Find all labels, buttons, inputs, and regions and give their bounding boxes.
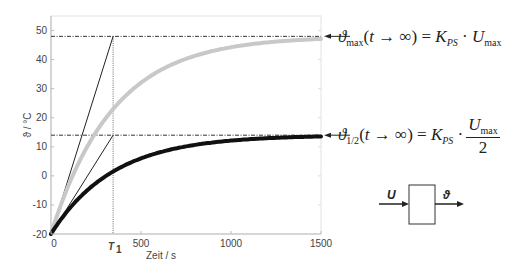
reference-lines (51, 36, 321, 234)
response-curve (51, 137, 321, 235)
eq-half-dot: · (453, 125, 463, 144)
t1-subscript: 1 (116, 244, 122, 255)
eq-half-arg: (t → ∞) = (359, 125, 431, 144)
equation-theta-half: ϑ1/2(t → ∞) = KPS · Umax 2 (338, 116, 500, 156)
annotation-arrowhead-icon (324, 34, 331, 39)
eq-half-denominator: 2 (466, 138, 500, 156)
eq-half-num-u: U (468, 115, 480, 134)
t1-label: T (108, 241, 115, 252)
output-arrowhead-icon (457, 201, 464, 207)
eq-half-num-sub: max (481, 125, 498, 136)
annotation-arrowhead-icon (324, 133, 331, 138)
block-input-label: U (387, 188, 396, 202)
x-tick-label: 500 (133, 238, 150, 249)
y-tick-label: 50 (36, 25, 48, 36)
x-axis-label: Zeit / s (146, 250, 176, 261)
system-block (409, 185, 435, 224)
eq-half-k: K (431, 125, 442, 144)
y-tick-label: 10 (36, 141, 48, 152)
x-tick-label: 1500 (310, 238, 333, 249)
equation-theta-max: ϑmax(t → ∞) = KPS · Umax (338, 28, 501, 48)
eq-max-theta-sub: max (346, 37, 363, 48)
eq-max-u-sub: max (484, 37, 501, 48)
y-tick-label: -20 (33, 229, 48, 240)
response-curves (51, 39, 321, 234)
y-tick-label: -10 (33, 199, 48, 210)
x-tick-label: 0 (51, 238, 57, 249)
block-diagram: U ϑ (379, 185, 464, 224)
x-tick-label: 1000 (220, 238, 243, 249)
eq-max-arg: (t → ∞) = (364, 27, 436, 46)
y-axis-label: ϑ / °C (22, 112, 33, 137)
input-arrowhead-icon (402, 201, 409, 207)
y-tick-label: 0 (41, 170, 47, 181)
block-output-label: ϑ (442, 188, 451, 202)
axes-frame (51, 16, 321, 234)
plot-axes (51, 16, 321, 234)
eq-half-k-sub: PS (442, 135, 453, 146)
eq-half-numerator: Umax (466, 116, 500, 138)
eq-half-lhs: ϑ1/2(t → ∞) = KPS · (338, 126, 463, 146)
y-tick-label: 20 (36, 112, 48, 123)
eq-max-dot: · (458, 27, 472, 46)
eq-max-k-sub: PS (447, 37, 458, 48)
y-tick-label: 30 (36, 83, 48, 94)
eq-half-theta-sub: 1/2 (346, 135, 359, 146)
y-tick-label: 40 (36, 54, 48, 65)
eq-half-fraction: Umax 2 (466, 116, 500, 156)
eq-max-u: U (472, 27, 484, 46)
eq-max-k: K (435, 27, 446, 46)
